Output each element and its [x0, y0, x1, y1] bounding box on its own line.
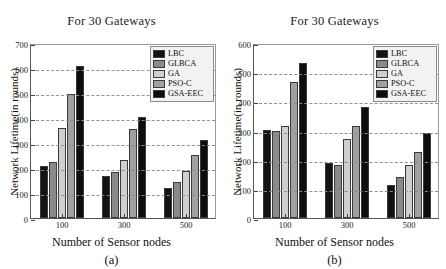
- x-tick-mark: [347, 214, 348, 218]
- y-tick-label: 400: [238, 98, 251, 108]
- legend-swatch: [153, 80, 165, 88]
- y-tick-mark: [254, 220, 258, 221]
- legend-item-lbc: LBC: [376, 49, 433, 59]
- legend-label: GSA-EEC: [168, 89, 203, 99]
- legend-label: LBC: [391, 49, 407, 59]
- grid-line: [254, 133, 438, 134]
- y-tick-label: 300: [238, 128, 251, 138]
- y-tick-mark: [31, 170, 35, 171]
- x-tick-label: 100: [279, 220, 292, 230]
- x-tick-label: 500: [403, 220, 416, 230]
- legend-swatch: [376, 50, 388, 58]
- y-tick-mark: [31, 195, 35, 196]
- grid-line: [31, 170, 215, 171]
- legend-item-pso-c: PSO-C: [376, 79, 433, 89]
- legend-label: LBC: [168, 49, 184, 59]
- bar-pso-c-100: [67, 94, 75, 219]
- x-axis-label-b: Number of Sensor nodes: [223, 235, 446, 250]
- chart-panel-b: For 30 Gateways Network Lifetime(in roun…: [223, 0, 446, 269]
- bar-ga-300: [120, 160, 128, 218]
- y-tick-label: 100: [15, 190, 28, 200]
- y-tick-label: 500: [238, 69, 251, 79]
- legend-item-gsa-eec: GSA-EEC: [153, 89, 210, 99]
- bar-glbca-500: [173, 182, 181, 218]
- y-tick-label: 0: [247, 215, 251, 225]
- x-axis-label-a: Number of Sensor nodes: [0, 235, 223, 250]
- y-tick-mark: [254, 74, 258, 75]
- grid-line: [31, 120, 215, 121]
- figure-container: For 30 Gateways Network Lifetime(in roun…: [0, 0, 446, 269]
- y-tick-label: 500: [15, 90, 28, 100]
- bar-pso-c-100: [290, 82, 298, 219]
- grid-line: [254, 103, 438, 104]
- bar-lbc-500: [164, 188, 172, 218]
- bar-glbca-100: [272, 131, 280, 218]
- x-tick-mark: [285, 214, 286, 218]
- x-tick-label: 300: [118, 220, 131, 230]
- bar-pso-c-500: [191, 155, 199, 218]
- y-tick-mark: [254, 103, 258, 104]
- legend-swatch: [153, 90, 165, 98]
- bar-ga-100: [58, 128, 66, 219]
- bar-glbca-500: [396, 177, 404, 218]
- y-tick-mark: [31, 95, 35, 96]
- legend-item-ga: GA: [376, 69, 433, 79]
- chart-title-a: For 30 Gateways: [0, 14, 223, 29]
- grid-line: [254, 162, 438, 163]
- y-tick-mark: [31, 145, 35, 146]
- bar-gsa-eec-500: [200, 140, 208, 218]
- grid-line: [31, 145, 215, 146]
- legend-item-lbc: LBC: [153, 49, 210, 59]
- bar-gsa-eec-300: [138, 117, 146, 218]
- legend-item-gsa-eec: GSA-EEC: [376, 89, 433, 99]
- grid-line: [254, 191, 438, 192]
- y-tick-label: 200: [15, 165, 28, 175]
- chart-title-b: For 30 Gateways: [223, 14, 446, 29]
- legend-swatch: [376, 70, 388, 78]
- bar-gsa-eec-100: [299, 63, 307, 218]
- legend-item-pso-c: PSO-C: [153, 79, 210, 89]
- y-tick-label: 0: [24, 215, 28, 225]
- legend-label: GSA-EEC: [391, 89, 426, 99]
- legend-label: GA: [168, 69, 180, 79]
- panel-caption-a: (a): [0, 253, 223, 268]
- y-tick-label: 100: [238, 186, 251, 196]
- legend-label: PSO-C: [391, 79, 415, 89]
- bar-pso-c-300: [129, 129, 137, 218]
- grid-line: [31, 195, 215, 196]
- bar-lbc-300: [102, 176, 110, 219]
- legend-swatch: [376, 90, 388, 98]
- legend-swatch: [153, 60, 165, 68]
- bar-gsa-eec-500: [423, 133, 431, 218]
- y-tick-label: 600: [15, 65, 28, 75]
- x-tick-mark: [186, 214, 187, 218]
- y-tick-mark: [31, 45, 35, 46]
- y-tick-mark: [31, 70, 35, 71]
- chart-panel-a: For 30 Gateways Network Lifetime(in roun…: [0, 0, 223, 269]
- y-tick-label: 300: [15, 140, 28, 150]
- legend-b: LBCGLBCAGAPSO-CGSA-EEC: [373, 46, 437, 102]
- legend-label: GA: [391, 69, 403, 79]
- legend-swatch: [153, 50, 165, 58]
- bar-ga-100: [281, 126, 289, 218]
- panel-caption-b: (b): [223, 253, 446, 268]
- y-tick-label: 700: [15, 40, 28, 50]
- legend-swatch: [376, 80, 388, 88]
- y-tick-mark: [31, 220, 35, 221]
- y-tick-label: 200: [238, 157, 251, 167]
- x-tick-label: 500: [180, 220, 193, 230]
- legend-swatch: [153, 70, 165, 78]
- y-tick-mark: [254, 133, 258, 134]
- legend-swatch: [376, 60, 388, 68]
- x-tick-mark: [409, 214, 410, 218]
- legend-label: PSO-C: [168, 79, 192, 89]
- bar-lbc-100: [40, 166, 48, 219]
- y-tick-mark: [254, 162, 258, 163]
- bar-pso-c-300: [352, 126, 360, 218]
- y-tick-label: 400: [15, 115, 28, 125]
- y-tick-mark: [254, 45, 258, 46]
- x-tick-label: 100: [56, 220, 69, 230]
- y-tick-mark: [31, 120, 35, 121]
- bar-lbc-100: [263, 130, 271, 218]
- legend-a: LBCGLBCAGAPSO-CGSA-EEC: [150, 46, 214, 102]
